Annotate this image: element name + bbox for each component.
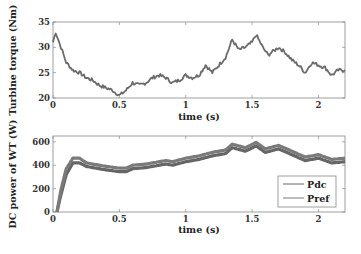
x-tick-label: 0.5	[112, 214, 127, 224]
torque-series	[53, 34, 345, 96]
y-tick-label: 30	[38, 42, 50, 52]
x-tick-label: 0.5	[112, 100, 127, 110]
x-tick-label: 0	[50, 214, 56, 224]
power-plot: 00.511.520200400600 DC power of WT (W) t…	[7, 119, 345, 235]
series-line-turbine-torque	[53, 34, 345, 96]
y-tick-label: 20	[38, 93, 50, 103]
y-tick-label: 35	[38, 17, 50, 27]
y-tick-label: 200	[32, 184, 50, 194]
torque-x-axis-label: time (s)	[178, 111, 220, 122]
x-tick-label: 1.5	[245, 100, 260, 110]
y-tick-label: 0	[44, 207, 50, 217]
chart-figure: 00.511.5220253035 Turbine torque (Nm) ti…	[0, 0, 361, 254]
legend-label-pdc: Pdc	[307, 179, 327, 190]
legend: Pdc Pref	[278, 176, 336, 207]
power-y-axis-label: DC power of WT (W)	[7, 119, 18, 228]
x-tick-label: 1	[183, 214, 189, 224]
torque-plot: 00.511.5220253035 Turbine torque (Nm) ti…	[7, 5, 345, 122]
torque-plot-frame	[53, 22, 345, 98]
torque-y-axis-label: Turbine torque (Nm)	[7, 5, 18, 116]
power-x-axis-label: time (s)	[178, 224, 220, 235]
x-tick-label: 1	[183, 100, 189, 110]
torque-plot-ticks: 00.511.5220253035	[38, 17, 345, 110]
x-tick-label: 1.5	[245, 214, 260, 224]
y-tick-label: 25	[38, 68, 50, 78]
y-tick-label: 400	[32, 160, 50, 170]
x-tick-label: 2	[315, 100, 321, 110]
y-tick-label: 600	[32, 137, 50, 147]
x-tick-label: 2	[315, 214, 321, 224]
legend-label-pref: Pref	[307, 193, 330, 204]
x-tick-label: 0	[50, 100, 56, 110]
